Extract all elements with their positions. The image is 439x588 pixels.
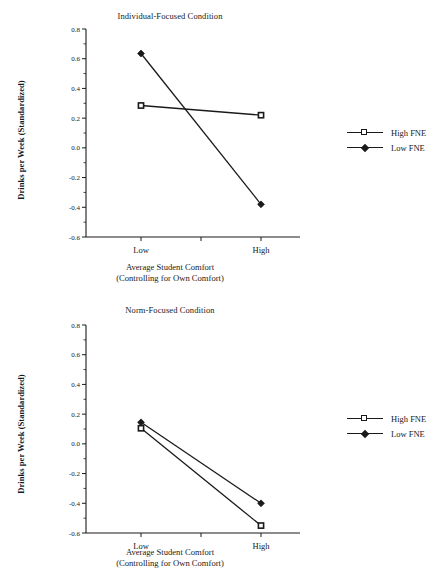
- legend-marker-square-icon: [345, 126, 385, 140]
- svg-text:-0.6: -0.6: [69, 234, 81, 242]
- legend-item-high-fne-2: High FNE: [345, 411, 426, 426]
- svg-text:-0.2: -0.2: [69, 174, 81, 182]
- legend-label-low-fne: Low FNE: [391, 143, 425, 153]
- legend-label-high-fne: High FNE: [391, 128, 426, 138]
- svg-text:0.8: 0.8: [71, 26, 80, 34]
- x-axis-caption-1: Average Student Comfort (Controlling for…: [55, 262, 285, 283]
- chart-panel-individual-focused: Individual-Focused Condition Drinks per …: [0, 0, 439, 294]
- svg-text:0.6: 0.6: [71, 351, 80, 359]
- x-axis-caption-line1: Average Student Comfort: [55, 547, 285, 558]
- svg-text:0.6: 0.6: [71, 55, 80, 63]
- legend-item-high-fne-1: High FNE: [345, 125, 426, 140]
- svg-text:High: High: [253, 245, 271, 255]
- svg-text:Low: Low: [133, 245, 149, 255]
- svg-text:-0.4: -0.4: [69, 500, 81, 508]
- legend-marker-diamond-icon: [345, 427, 385, 441]
- legend-marker-square-icon: [345, 412, 385, 426]
- svg-text:0.4: 0.4: [71, 381, 80, 389]
- svg-text:0.4: 0.4: [71, 85, 80, 93]
- legend-2: High FNE Low FNE: [345, 411, 426, 441]
- svg-text:-0.4: -0.4: [69, 204, 81, 212]
- svg-text:0.8: 0.8: [71, 322, 80, 330]
- svg-text:0.0: 0.0: [71, 440, 80, 448]
- x-axis-caption-line1: Average Student Comfort: [55, 262, 285, 273]
- legend-label-high-fne: High FNE: [391, 414, 426, 424]
- legend-marker-diamond-icon: [345, 141, 385, 155]
- x-axis-caption-line2: (Controlling for Own Comfort): [55, 273, 285, 284]
- chart-panel-norm-focused: Norm-Focused Condition Drinks per Week (…: [0, 294, 439, 588]
- legend-label-low-fne: Low FNE: [391, 429, 425, 439]
- legend-item-low-fne-1: Low FNE: [345, 140, 426, 155]
- svg-text:-0.2: -0.2: [69, 470, 81, 478]
- svg-text:-0.6: -0.6: [69, 530, 81, 538]
- legend-1: High FNE Low FNE: [345, 125, 426, 155]
- svg-text:0.2: 0.2: [71, 411, 80, 419]
- svg-text:0.0: 0.0: [71, 144, 80, 152]
- svg-text:0.2: 0.2: [71, 115, 80, 123]
- x-axis-caption-line2: (Controlling for Own Comfort): [55, 558, 285, 569]
- x-axis-caption-2: Average Student Comfort (Controlling for…: [55, 547, 285, 568]
- legend-item-low-fne-2: Low FNE: [345, 426, 426, 441]
